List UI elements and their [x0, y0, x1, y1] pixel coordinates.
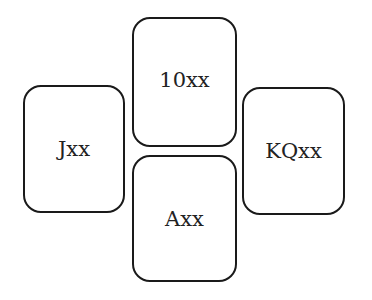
east-hand-box: KQxx: [242, 87, 345, 215]
north-hand-label: 10xx: [159, 68, 209, 92]
east-hand-label: KQxx: [265, 139, 322, 163]
south-hand-box: Axx: [132, 155, 237, 282]
south-hand-label: Axx: [165, 207, 204, 231]
west-hand-label: Jxx: [58, 137, 90, 161]
west-hand-box: Jxx: [23, 85, 125, 213]
north-hand-box: 10xx: [132, 17, 237, 147]
